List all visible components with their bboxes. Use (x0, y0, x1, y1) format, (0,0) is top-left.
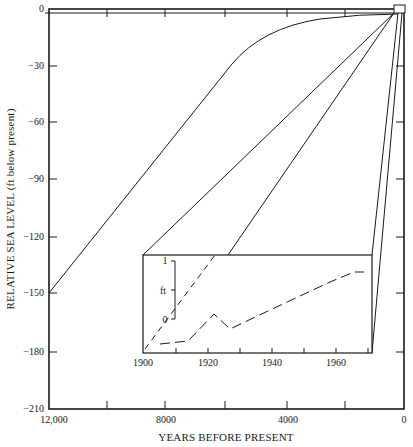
y-tick-30: −30 (28, 60, 44, 71)
x-tick-0: 0 (402, 414, 407, 425)
inset-frame (143, 255, 372, 353)
inset-scale-unit: ft (160, 285, 166, 296)
x-tick-4000: 4000 (278, 414, 298, 425)
x-axis-title: YEARS BEFORE PRESENT (158, 431, 293, 443)
y-tick-60: −60 (28, 116, 44, 127)
inset-scale-top: 1 (163, 255, 168, 266)
x-tick-12000: 12,000 (40, 414, 68, 425)
inset-x-1940: 1940 (262, 357, 282, 368)
y-tick-90: −90 (28, 173, 44, 184)
inset-x-1920: 1920 (198, 357, 218, 368)
y-tick-120: −120 (23, 231, 44, 242)
y-tick-180: −180 (23, 346, 44, 357)
inset-panel: 1900 1920 1940 1960 1 ft 0 (133, 255, 372, 368)
y-tick-labels: 0 −30 −60 −90 −120 −150 −180 −210 (23, 3, 44, 414)
sea-level-chart: 0 −30 −60 −90 −120 −150 −180 −210 12,000… (0, 0, 413, 447)
inset-x-labels: 1900 1920 1940 1960 (133, 357, 346, 368)
x-tick-labels: 12,000 8000 4000 0 (40, 414, 406, 425)
y-tick-210: −210 (23, 403, 44, 414)
x-tick-8000: 8000 (156, 414, 176, 425)
zoom-region-box (394, 5, 405, 13)
y-axis-title: RELATIVE SEA LEVEL (ft below present) (4, 108, 17, 309)
y-tick-150: −150 (23, 287, 44, 298)
sea-level-curve (49, 14, 398, 293)
inset-x-1960: 1960 (326, 357, 346, 368)
inset-x-1900: 1900 (133, 357, 153, 368)
y-tick-0: 0 (39, 3, 44, 14)
